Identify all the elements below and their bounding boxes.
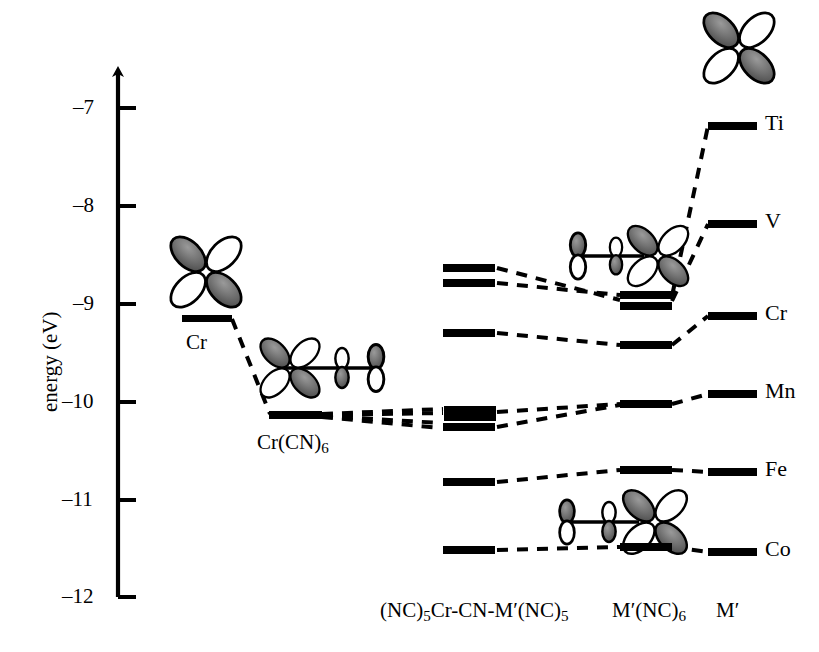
tick-label-minus8: –8 [73, 193, 94, 218]
level-bar-mnc6-ti [620, 291, 672, 299]
crcn6-label-sub: 6 [321, 440, 329, 456]
level-bar-bridged-7 [443, 546, 495, 554]
level-bar-bridged-5 [443, 423, 495, 431]
crcn6-label: Cr(CN)6 [257, 430, 329, 457]
bridged-label-p1: (NC) [380, 598, 423, 622]
cr-label: Cr [186, 330, 207, 355]
level-bar-crcn6 [269, 411, 322, 419]
level-bar-mprime-co [708, 548, 757, 556]
level-bar-bridged-1 [443, 264, 495, 272]
mnc6-column-label: M′(NC)6 [612, 598, 686, 625]
tick-label-minus7: –7 [73, 95, 94, 120]
level-bar-mprime-cr [708, 312, 757, 320]
series-label-mn: Mn [765, 378, 796, 404]
link-b-7 [497, 547, 620, 550]
d-orbital-cr-icon [164, 230, 247, 313]
level-bar-bridged-6 [443, 478, 495, 486]
y-axis [118, 72, 136, 597]
tick-label-minus11: –11 [62, 487, 93, 512]
series-label-cr: Cr [765, 300, 787, 326]
series-label-fe: Fe [765, 456, 787, 482]
level-bar-mnc6-fe [620, 466, 672, 474]
mprime-label-p1: M′ [716, 598, 739, 622]
level-bar-mnc6-v [620, 302, 672, 310]
mnc6-label-p2: 6 [678, 608, 686, 624]
bridged-column-label: (NC)5Cr-CN-M′(NC)5 [380, 598, 568, 625]
level-bar-mprime-v [708, 220, 757, 228]
level-bar-mprime-ti [708, 122, 757, 130]
series-label-v: V [765, 208, 781, 234]
link-m-cr [672, 316, 708, 345]
bridged-label-p2: 5 [423, 608, 431, 624]
diagram-vector-layer [0, 0, 819, 652]
mprime-column-label: M′ [716, 598, 739, 623]
level-bar-bridged-4 [444, 406, 496, 421]
mnc6-label-p1: M′(NC) [612, 598, 678, 622]
link-b-6 [497, 470, 620, 482]
link-cr-crcn6 [232, 319, 270, 414]
cr-label-text: Cr [186, 330, 207, 354]
bridged-label-p4: 5 [561, 608, 569, 624]
link-m-fe [672, 470, 708, 472]
level-bar-cr [182, 315, 232, 322]
pi-star-d-upper-icon [570, 220, 693, 291]
level-bar-mnc6-cr [620, 341, 672, 349]
energy-level-diagram: –7 –8 –9 –10 –11 –12 energy (eV) Ti V Cr… [0, 0, 819, 652]
tick-label-minus12: –12 [62, 584, 94, 609]
level-bar-mnc6-mn [620, 400, 672, 408]
level-bar-bridged-3 [443, 329, 495, 337]
link-crcn6-b2 [322, 416, 441, 423]
link-b-3 [497, 333, 620, 345]
link-m-mn [672, 394, 708, 404]
correlation-lines [232, 126, 708, 552]
series-label-co: Co [765, 536, 791, 562]
tick-label-minus9: –9 [73, 291, 94, 316]
bridged-label-p3: Cr-CN-M′(NC) [431, 598, 561, 622]
level-bar-mnc6-co [620, 543, 672, 551]
tick-label-minus10: –10 [62, 389, 94, 414]
d-pi-cr-cn-icon [255, 333, 384, 403]
d-orbital-mprime-icon [697, 6, 780, 89]
level-bar-bridged-2 [443, 279, 495, 287]
crcn6-label-text: Cr(CN) [257, 430, 321, 454]
series-label-ti: Ti [765, 110, 784, 136]
y-axis-title: energy (eV) [38, 312, 63, 412]
level-bar-mprime-mn [708, 390, 757, 398]
level-bar-mprime-fe [708, 468, 757, 476]
